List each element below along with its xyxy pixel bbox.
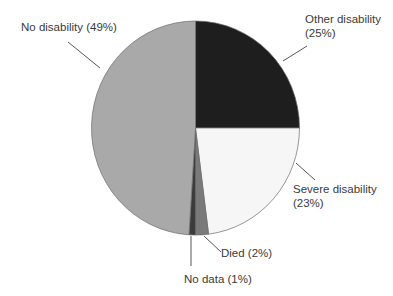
leader-line-severe-disability [296,163,315,180]
pie-slice-severe-disability [196,128,300,234]
label-severe-disability: Severe disability (23%) [293,182,377,210]
label-no-data: No data (1%) [184,272,252,286]
label-other-disability-pct: (25%) [305,26,381,40]
leader-line-no-disability [68,42,100,68]
label-no-disability: No disability (49%) [21,20,117,34]
label-other-disability-name: Other disability [305,12,381,26]
label-other-disability: Other disability (25%) [305,12,381,40]
pie-chart [0,0,393,296]
label-severe-disability-name: Severe disability [293,182,377,196]
leader-line-other-disability [283,46,307,61]
pie-slice-other-disability [196,21,300,128]
pie-slices [91,21,299,235]
label-died: Died (2%) [221,246,272,260]
label-severe-disability-pct: (23%) [293,196,377,210]
leader-line-died [204,236,221,252]
pie-slice-no-disability [91,21,195,235]
